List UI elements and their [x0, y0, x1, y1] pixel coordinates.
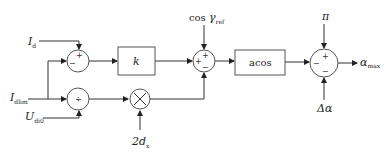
summing-junction-1: + − [67, 50, 89, 72]
input-label-pi: π [321, 10, 330, 23]
input-label-cos-gamma-ref: cos γref [189, 11, 225, 25]
input-label-idlim: Idlim [9, 91, 28, 105]
input-label-delta-alpha: Δα [316, 102, 333, 115]
svg-text:acos: acos [249, 57, 272, 68]
svg-text:−: − [313, 59, 320, 68]
summing-junction-2: + + − [193, 50, 215, 72]
acos-block: acos [235, 50, 285, 75]
svg-text:+: + [202, 51, 209, 60]
svg-text:−: − [322, 67, 329, 76]
divider-block: ÷ [67, 88, 89, 110]
wire-id [39, 41, 79, 49]
input-label-2dx: 2dx [131, 135, 150, 149]
input-label-udi0: Udi0 [25, 110, 44, 124]
svg-text:+: + [76, 51, 83, 60]
svg-text:−: − [69, 59, 76, 68]
control-block-diagram: Id Idlim Udi0 2dx cos γref π Δα + − ÷ [0, 0, 386, 155]
output-label-alpha-max: αmax [360, 56, 381, 69]
svg-text:÷: ÷ [75, 95, 82, 104]
input-label-id: Id [27, 35, 36, 49]
svg-text:−: − [202, 63, 209, 72]
wire-mult-sum2 [150, 73, 204, 99]
summing-junction-3: + − − [310, 49, 338, 77]
multiplier-block [130, 89, 150, 109]
wire-udi0 [43, 111, 79, 118]
svg-text:k: k [133, 55, 140, 68]
svg-text:+: + [195, 57, 202, 66]
wire-idlim-sum1 [48, 61, 66, 99]
gain-block-k: k [118, 47, 155, 75]
svg-text:+: + [322, 52, 329, 61]
